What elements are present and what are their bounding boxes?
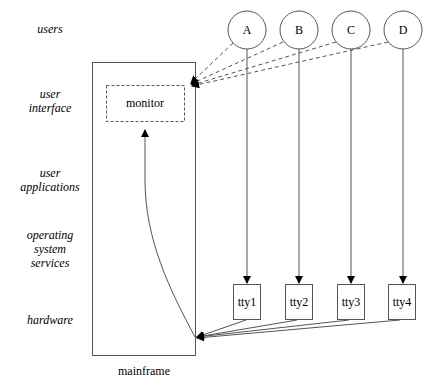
tty-label: tty4 bbox=[393, 295, 412, 309]
tty-node-2[interactable]: tty2 bbox=[286, 285, 313, 320]
edge-mainframe-to-monitor bbox=[145, 130, 195, 337]
user-label: D bbox=[399, 23, 408, 37]
tty-label: tty1 bbox=[238, 295, 257, 309]
edges-users-to-tty bbox=[247, 49, 403, 283]
tty-node-4[interactable]: tty4 bbox=[389, 285, 416, 320]
user-node-c[interactable]: C bbox=[332, 11, 370, 49]
user-label: A bbox=[243, 23, 252, 37]
monitor-label: monitor bbox=[126, 96, 164, 110]
tty-node-3[interactable]: tty3 bbox=[338, 285, 365, 320]
monitor-node[interactable]: monitor bbox=[107, 86, 185, 122]
tty-label: tty3 bbox=[342, 295, 361, 309]
user-node-d[interactable]: D bbox=[384, 11, 422, 49]
edges-tty-to-mainframe bbox=[197, 320, 400, 338]
diagram-canvas: mainframe monitor A B C D tty1 bbox=[0, 0, 437, 384]
user-node-a[interactable]: A bbox=[228, 11, 266, 49]
user-label: B bbox=[295, 23, 303, 37]
mainframe-label: mainframe bbox=[118, 364, 170, 378]
tty-label: tty2 bbox=[290, 295, 309, 309]
edges-users-to-monitor bbox=[191, 42, 388, 86]
user-label: C bbox=[347, 23, 355, 37]
user-node-b[interactable]: B bbox=[280, 11, 318, 49]
tty-node-1[interactable]: tty1 bbox=[234, 285, 261, 320]
